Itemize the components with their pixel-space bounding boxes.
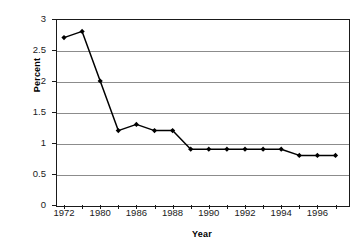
- data-point-marker: [206, 147, 211, 152]
- x-tick-label: 1994: [261, 208, 301, 218]
- data-point-marker: [242, 147, 247, 152]
- data-point-marker: [297, 153, 302, 158]
- data-point-marker: [98, 78, 103, 83]
- data-point-marker: [279, 147, 284, 152]
- data-point-marker: [80, 29, 85, 34]
- data-point-marker: [333, 153, 338, 158]
- series-markers: [61, 29, 338, 158]
- series-line: [64, 31, 336, 155]
- data-point-marker: [116, 128, 121, 133]
- data-point-marker: [152, 128, 157, 133]
- data-point-marker: [134, 122, 139, 127]
- x-tick-label: 1988: [153, 208, 193, 218]
- data-point-marker: [61, 35, 66, 40]
- x-tick-label: 1986: [116, 208, 156, 218]
- data-point-marker: [261, 147, 266, 152]
- data-point-marker: [224, 147, 229, 152]
- data-point-marker: [315, 153, 320, 158]
- x-axis-title: Year: [56, 229, 348, 239]
- x-tick-label: 1990: [189, 208, 229, 218]
- x-tick-label: 1996: [297, 208, 337, 218]
- x-tick-label: 1992: [225, 208, 265, 218]
- x-axis-tick-labels: 19721980198619881990199219941996: [0, 208, 359, 224]
- x-tick-label: 1980: [80, 208, 120, 218]
- line-chart: Percent 00.511.522.53 197219801986198819…: [0, 0, 359, 250]
- x-tick-label: 1972: [44, 208, 84, 218]
